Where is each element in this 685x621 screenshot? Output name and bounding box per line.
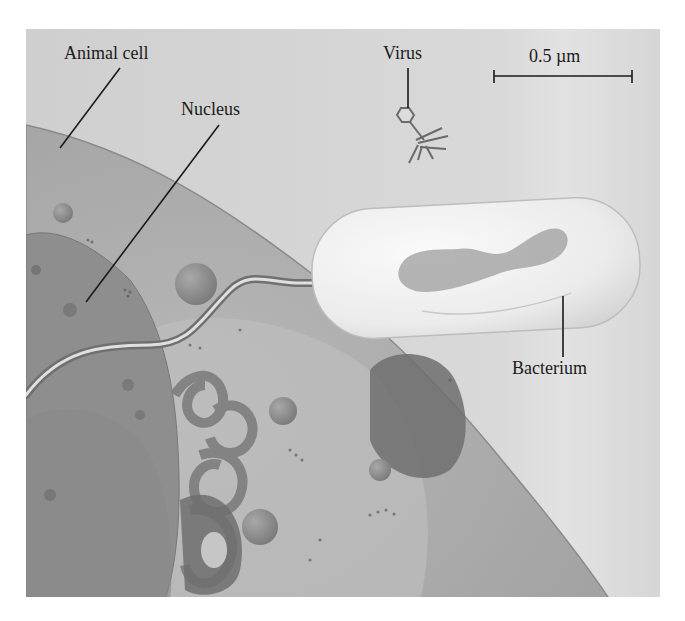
bacterium [309, 195, 643, 342]
figure: Animal cell Nucleus Virus 0.5 µm Bacteri… [0, 0, 685, 621]
nucleus-label: Nucleus [181, 100, 240, 118]
cell-illustration [0, 0, 685, 621]
bacterium-label: Bacterium [512, 359, 587, 377]
virus-label: Virus [383, 44, 422, 62]
animal-cell-label: Animal cell [64, 44, 148, 62]
scale-bar-label: 0.5 µm [529, 47, 580, 65]
